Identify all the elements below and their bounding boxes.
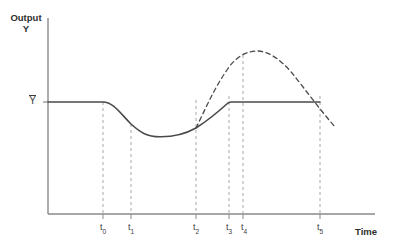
output-gap-chart: Output Y Time Y t0 t1 t2 t3 t4 t5 bbox=[0, 0, 394, 246]
ybar-symbol: Y bbox=[29, 96, 36, 106]
potential-output-dashed-curve bbox=[196, 51, 336, 128]
tick-label-t1: t1 bbox=[128, 222, 134, 232]
tick-label-t4-text: t4 bbox=[241, 222, 247, 232]
y-axis-title-line1: Output bbox=[10, 12, 41, 23]
vertical-guide-lines bbox=[103, 55, 320, 214]
ybar-reference-label: Y bbox=[29, 95, 36, 106]
actual-output-solid-curve bbox=[48, 102, 320, 137]
y-axis-title-line2: Y bbox=[6, 23, 46, 34]
tick-label-t3: t3 bbox=[226, 222, 232, 232]
tick-label-t5: t5 bbox=[317, 222, 323, 232]
chart-canvas bbox=[0, 0, 394, 246]
tick-label-t1-text: t1 bbox=[128, 222, 134, 232]
tick-label-t3-text: t3 bbox=[226, 222, 232, 232]
tick-label-t0-text: t0 bbox=[100, 222, 106, 232]
tick-label-t5-text: t5 bbox=[317, 222, 323, 232]
x-axis-ticks bbox=[103, 214, 320, 219]
tick-label-t0: t0 bbox=[100, 222, 106, 232]
tick-label-t4: t4 bbox=[241, 222, 247, 232]
y-axis-title: Output Y bbox=[6, 12, 46, 34]
tick-label-t2-text: t2 bbox=[193, 222, 199, 232]
tick-label-t2: t2 bbox=[193, 222, 199, 232]
x-axis-title: Time bbox=[355, 226, 377, 237]
